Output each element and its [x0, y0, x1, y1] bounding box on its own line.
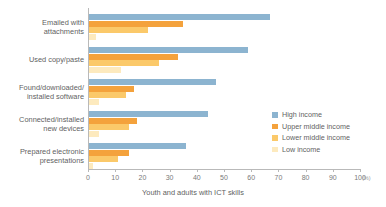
bar	[88, 111, 208, 117]
x-axis-tick-label: 20	[138, 174, 146, 181]
x-axis-tick-label: 90	[329, 174, 337, 181]
legend-label: Low income	[282, 145, 320, 154]
legend-label: High income	[282, 110, 322, 119]
bar	[88, 47, 248, 53]
legend: High incomeUpper middle incomeLower midd…	[272, 109, 350, 155]
bar	[88, 34, 96, 40]
category-label: Connected/installednew devices	[0, 115, 84, 133]
x-axis-tick-label: 70	[274, 174, 282, 181]
bar	[88, 92, 126, 98]
bar	[88, 156, 118, 162]
bar	[88, 60, 159, 66]
bar	[88, 27, 148, 33]
legend-item[interactable]: Low income	[272, 144, 350, 156]
x-axis-tick	[224, 169, 225, 172]
x-axis-tick-label: 10	[111, 174, 119, 181]
x-axis-tick-label: 50	[220, 174, 228, 181]
x-axis-tick-label: 80	[302, 174, 310, 181]
x-axis-tick-label: 0	[86, 174, 90, 181]
legend-label: Lower middle income	[282, 133, 350, 142]
x-axis-tick	[333, 169, 334, 172]
x-axis-tick-label: 40	[193, 174, 201, 181]
category-label: Used copy/paste	[0, 55, 84, 64]
category-label: Prepared electronicpresentations	[0, 147, 84, 165]
bar	[88, 86, 134, 92]
legend-item[interactable]: High income	[272, 109, 350, 121]
bar	[88, 150, 129, 156]
x-axis-tick	[115, 169, 116, 172]
percent-unit-label: (%)	[362, 175, 371, 181]
x-axis-tick	[142, 169, 143, 172]
x-axis-tick	[197, 169, 198, 172]
bar	[88, 99, 99, 105]
legend-swatch-icon	[272, 124, 278, 130]
bar	[88, 67, 121, 73]
x-axis-tick	[278, 169, 279, 172]
x-axis-tick	[360, 169, 361, 172]
y-axis-line	[88, 8, 89, 170]
bar	[88, 14, 270, 20]
x-axis-tick	[251, 169, 252, 172]
x-axis-tick	[88, 169, 89, 172]
legend-swatch-icon	[272, 112, 278, 118]
x-axis-tick-label: 60	[247, 174, 255, 181]
legend-label: Upper middle income	[282, 122, 350, 131]
category-axis-labels: Emailed withattachmentsUsed copy/pasteFo…	[0, 8, 84, 168]
bar	[88, 21, 183, 27]
legend-swatch-icon	[272, 147, 278, 153]
bar-chart: Emailed withattachmentsUsed copy/pasteFo…	[0, 0, 386, 207]
bar	[88, 54, 178, 60]
bar	[88, 79, 216, 85]
category-label: Emailed withattachments	[0, 18, 84, 36]
category-label: Found/downloaded/installed software	[0, 83, 84, 101]
bar	[88, 118, 137, 124]
legend-item[interactable]: Lower middle income	[272, 132, 350, 144]
bar	[88, 131, 99, 137]
bar	[88, 143, 186, 149]
x-axis-tick	[170, 169, 171, 172]
bar	[88, 124, 129, 130]
legend-swatch-icon	[272, 135, 278, 141]
x-axis-title: Youth and adults with ICT skills	[0, 188, 386, 197]
x-axis-tick-label: 30	[166, 174, 174, 181]
x-axis-tick	[306, 169, 307, 172]
legend-item[interactable]: Upper middle income	[272, 121, 350, 133]
